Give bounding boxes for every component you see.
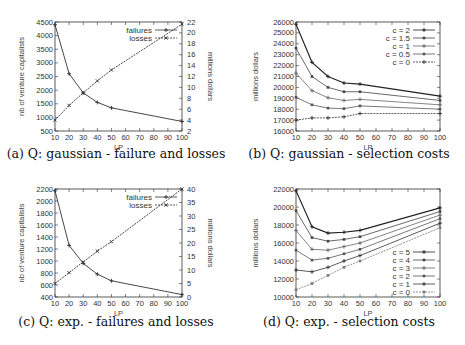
panel-d: 1020304050607080901001000012000140001600…: [233, 172, 465, 345]
x-tick-label: 60: [121, 133, 129, 142]
x-tick-label: 20: [65, 299, 73, 308]
y-axis-label: nb of venture capitalists: [17, 203, 26, 282]
x-tick-label: 80: [404, 299, 412, 308]
y-tick-label: 1800: [36, 209, 53, 218]
y-axis-label: millions dollars: [251, 52, 260, 101]
series-line: [295, 217, 442, 261]
axes: 1020304050607080901001000012000140001600…: [251, 185, 446, 319]
y-tick-label: 4500: [36, 18, 53, 27]
y-tick-label: 22000: [273, 185, 294, 194]
axes: 1020304050607080901005001000150020002500…: [17, 18, 215, 153]
y2-tick-label: 10: [187, 83, 195, 92]
y-tick-label: 12000: [273, 275, 294, 284]
axes: 1020304050607080901004006008001000120014…: [17, 185, 215, 319]
x-tick-label: 70: [388, 133, 396, 142]
y2-tick-label: 18: [187, 39, 195, 48]
y2-tick-label: 2: [187, 127, 191, 136]
y-tick-label: 20000: [273, 83, 294, 92]
x-tick-label: 30: [324, 299, 332, 308]
y2-tick-label: 4: [187, 116, 191, 125]
x-tick-label: 70: [135, 299, 143, 308]
x-tick-label: 60: [372, 133, 380, 142]
caption-b: (b) Q: gaussian - selection costs: [233, 146, 465, 161]
y2-tick-label: 14: [187, 61, 195, 70]
y-tick-label: 21000: [273, 72, 294, 81]
y-tick-label: 400: [40, 293, 53, 302]
y2-tick-label: 25: [187, 225, 195, 234]
x-tick-label: 60: [372, 299, 380, 308]
y-tick-label: 26000: [273, 18, 294, 27]
y-tick-label: 2000: [36, 197, 53, 206]
y2-tick-label: 5: [187, 279, 191, 288]
y-tick-label: 1600: [36, 221, 53, 230]
x-tick-label: 70: [135, 133, 143, 142]
y-tick-label: 18000: [273, 221, 294, 230]
x-tick-label: 90: [420, 299, 428, 308]
y-tick-label: 1200: [36, 245, 53, 254]
series-line: [294, 189, 442, 235]
x-tick-label: 70: [388, 299, 396, 308]
caption-d: (d) Q: exp. - selection costs: [233, 314, 465, 329]
y-tick-label: 3000: [36, 58, 53, 67]
y2-tick-label: 8: [187, 94, 191, 103]
y-tick-label: 25000: [273, 28, 294, 37]
x-tick-label: 20: [308, 299, 316, 308]
y-tick-label: 18000: [273, 105, 294, 114]
series-line: [294, 22, 442, 98]
y2-tick-label: 12: [187, 72, 195, 81]
y-axis-label: nb of venture capitalists: [17, 37, 26, 116]
chart-a: 1020304050607080901005001000150020002500…: [0, 0, 232, 150]
x-tick-label: 60: [121, 299, 129, 308]
y-tick-label: 16000: [273, 239, 294, 248]
series-line: [53, 187, 183, 285]
x-tick-label: 30: [79, 133, 87, 142]
x-tick-label: 20: [65, 133, 73, 142]
y2-tick-label: 40: [187, 185, 195, 194]
x-tick-label: 40: [93, 133, 101, 142]
y-tick-label: 2000: [36, 86, 53, 95]
legend: failureslosses: [126, 26, 177, 43]
legend-label: losses: [129, 201, 152, 210]
series-line: [294, 71, 442, 107]
x-tick-label: 100: [434, 299, 447, 308]
legend-label: losses: [129, 34, 152, 43]
x-tick-label: 80: [150, 299, 158, 308]
legend: failureslosses: [126, 193, 177, 210]
y2-tick-label: 35: [187, 198, 195, 207]
y-tick-label: 1500: [36, 99, 53, 108]
y-tick-label: 2500: [36, 72, 53, 81]
y-tick-label: 600: [40, 281, 53, 290]
y-tick-label: 23000: [273, 50, 294, 59]
x-tick-label: 40: [340, 133, 348, 142]
caption-c: (c) Q: exp. - failures and losses: [0, 314, 232, 329]
caption-a: (a) Q: gaussian - failure and losses: [0, 146, 232, 161]
chart-d: 1020304050607080901001000012000140001600…: [233, 172, 465, 322]
y-tick-label: 1400: [36, 233, 53, 242]
y2-tick-label: 6: [187, 105, 191, 114]
x-tick-label: 40: [93, 299, 101, 308]
x-tick-label: 50: [107, 133, 115, 142]
y2-tick-label: 30: [187, 212, 195, 221]
x-tick-label: 100: [434, 133, 447, 142]
y2-tick-label: 0: [187, 293, 191, 302]
y-tick-label: 10000: [273, 293, 294, 302]
x-tick-label: 80: [150, 133, 158, 142]
y-tick-label: 22000: [273, 61, 294, 70]
y-tick-label: 17000: [273, 116, 294, 125]
y-tick-label: 14000: [273, 257, 294, 266]
x-tick-label: 90: [164, 299, 172, 308]
y-tick-label: 19000: [273, 94, 294, 103]
x-tick-label: 90: [420, 133, 428, 142]
y2-tick-label: 20: [187, 239, 195, 248]
chart-b: 1020304050607080901001600017000180001900…: [233, 0, 465, 150]
legend-label: c = 0: [392, 288, 410, 297]
y-tick-label: 24000: [273, 39, 294, 48]
series-line: [294, 112, 442, 123]
y2-tick-label: 15: [187, 252, 195, 261]
y2-tick-label: 10: [187, 266, 195, 275]
x-tick-label: 80: [404, 133, 412, 142]
y-tick-label: 4000: [36, 31, 53, 40]
panel-c: 1020304050607080901004006008001000120014…: [0, 172, 232, 345]
legend-label: c = 0: [392, 58, 410, 67]
x-tick-label: 20: [308, 133, 316, 142]
